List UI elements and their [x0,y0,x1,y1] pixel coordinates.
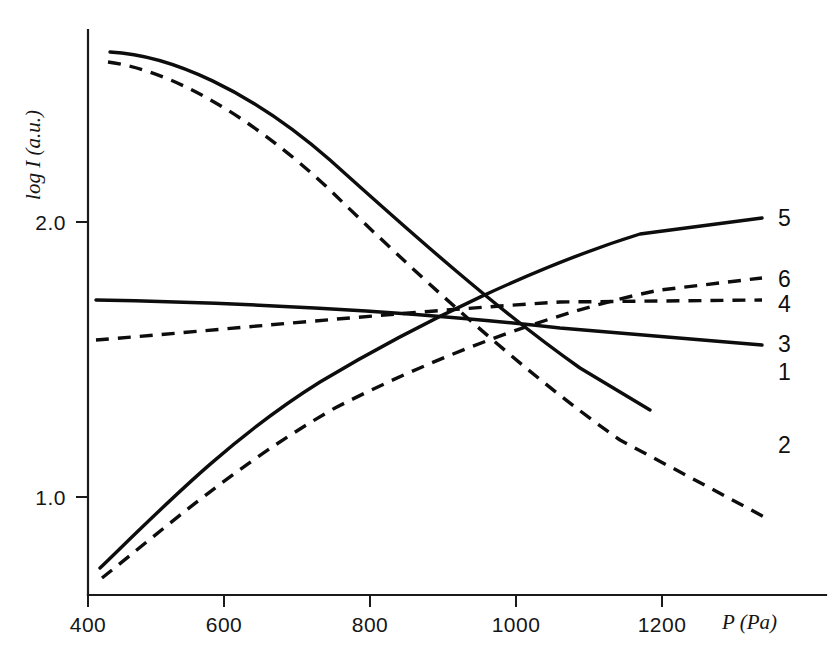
x-tick-label-600: 600 [206,613,243,636]
y-axis-title: log I (a.u.) [21,110,45,200]
curve-label-4: 4 [778,291,791,317]
x-tick-label-1000: 1000 [492,613,541,636]
x-tick-label-800: 800 [352,613,389,636]
curve-label-5: 5 [778,205,791,231]
curve-label-2: 2 [778,432,791,458]
curve-label-1: 1 [778,359,791,385]
curve-6 [102,278,762,578]
curve-label-6: 6 [778,266,791,292]
y-tick-label-1: 1.0 [35,486,66,509]
x-axis-title: P (Pa) [721,610,777,634]
curve-1 [110,52,650,410]
x-tick-label-400: 400 [70,613,107,636]
figure-container: 5 6 4 3 1 2 2.0 1.0 400 600 800 1000 120… [0,0,832,657]
curve-2 [108,62,770,520]
y-tick-label-2: 2.0 [35,211,66,234]
curve-label-3: 3 [778,331,791,357]
x-tick-label-1200: 1200 [638,613,687,636]
line-chart: 5 6 4 3 1 2 2.0 1.0 400 600 800 1000 120… [0,0,832,657]
curve-5 [100,218,762,568]
